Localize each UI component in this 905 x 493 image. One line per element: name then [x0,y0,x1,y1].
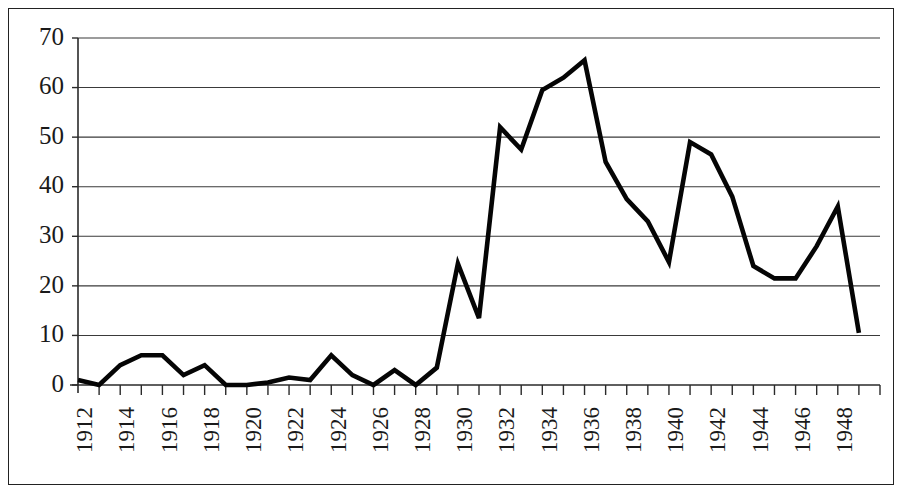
data-series [78,60,859,385]
y-tick-label: 20 [39,271,64,298]
x-tick-label: 1948 [832,407,857,453]
gridlines [78,38,880,335]
y-tick-label: 30 [39,221,64,248]
x-tick-label: 1926 [368,407,393,453]
x-tick-label: 1916 [157,407,182,453]
data-line [78,60,859,385]
x-tick-label: 1924 [326,407,351,454]
x-tick-label: 1938 [621,407,646,453]
x-tick-label: 1940 [663,407,688,453]
x-tick-label: 1930 [452,407,477,453]
x-axis-tick-labels: 1912191419161918192019221924192619281930… [72,407,857,454]
y-tick-label: 50 [39,122,64,149]
y-tick-label: 0 [52,370,65,397]
x-axis-ticks [99,385,880,395]
y-axis-ticks [72,38,78,393]
x-tick-label: 1922 [283,407,308,453]
x-tick-label: 1918 [199,407,224,453]
x-tick-label: 1932 [494,407,519,453]
line-chart: 010203040506070 191219141916191819201922… [0,0,905,493]
x-tick-label: 1936 [579,407,604,453]
y-axis-tick-labels: 010203040506070 [39,23,64,397]
x-tick-label: 1912 [72,407,97,453]
x-tick-label: 1928 [410,407,435,453]
y-tick-label: 60 [39,72,64,99]
x-tick-label: 1946 [790,407,815,453]
x-tick-label: 1934 [537,407,562,454]
x-tick-label: 1942 [705,407,730,453]
y-tick-label: 70 [39,23,64,50]
x-tick-label: 1920 [241,407,266,453]
figure-container: 010203040506070 191219141916191819201922… [0,0,905,493]
x-tick-label: 1914 [114,407,139,454]
x-tick-label: 1944 [748,407,773,454]
y-tick-label: 10 [39,320,64,347]
y-tick-label: 40 [39,171,64,198]
